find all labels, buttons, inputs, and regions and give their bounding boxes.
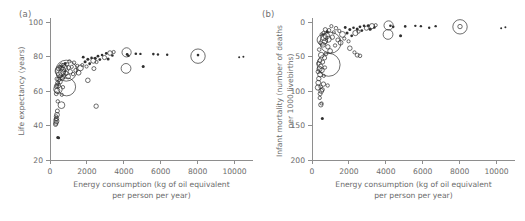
data-point-bubble bbox=[458, 24, 462, 28]
data-point-dot bbox=[197, 54, 200, 57]
data-point-bubble bbox=[92, 67, 96, 71]
data-point-dot bbox=[242, 56, 244, 58]
y-tick-label: 0 bbox=[300, 18, 305, 27]
data-point-bubble bbox=[353, 51, 356, 54]
data-point-bubble bbox=[453, 20, 467, 34]
data-point-dot bbox=[399, 34, 402, 37]
panel-a: (a) 204060801000200040006000800010000Ene… bbox=[0, 0, 262, 221]
panel-b: (b) 0501001502000200040006000800010000En… bbox=[262, 0, 524, 221]
data-point-dot bbox=[373, 26, 376, 29]
data-point-bubble bbox=[85, 65, 88, 68]
x-tick-label: 2000 bbox=[339, 167, 358, 176]
data-point-bubble bbox=[336, 38, 340, 42]
data-points bbox=[54, 48, 245, 140]
data-point-dot bbox=[348, 28, 351, 31]
data-point-dot bbox=[359, 25, 362, 28]
data-point-dot bbox=[504, 26, 506, 28]
data-point-bubble bbox=[384, 21, 393, 30]
data-point-dot bbox=[157, 53, 159, 55]
y-tick-label: 200 bbox=[291, 156, 306, 165]
data-point-dot bbox=[420, 25, 422, 27]
x-axis-title-line2: per person per year) bbox=[374, 191, 452, 200]
data-point-bubble bbox=[322, 56, 326, 60]
x-tick-label: 4000 bbox=[376, 167, 395, 176]
data-point-dot bbox=[166, 54, 168, 56]
data-point-dot bbox=[344, 26, 347, 29]
y-tick-label: 60 bbox=[33, 87, 43, 96]
y-tick-label: 100 bbox=[29, 18, 44, 27]
data-point-bubble bbox=[318, 52, 324, 58]
data-point-dot bbox=[90, 57, 93, 60]
data-point-bubble bbox=[317, 53, 340, 76]
data-point-dot bbox=[321, 117, 324, 120]
data-point-dot bbox=[152, 53, 155, 56]
y-tick-label: 50 bbox=[295, 52, 305, 61]
data-point-dot bbox=[404, 25, 407, 28]
data-points bbox=[315, 20, 506, 120]
y-tick-label: 20 bbox=[33, 156, 43, 165]
data-point-dot bbox=[500, 27, 502, 29]
figure-container: (a) 204060801000200040006000800010000Ene… bbox=[0, 0, 525, 221]
data-point-bubble bbox=[348, 46, 353, 51]
x-tick-label: 6000 bbox=[151, 167, 170, 176]
panel-b-plot: 0501001502000200040006000800010000Energy… bbox=[262, 0, 524, 221]
x-tick-label: 0 bbox=[48, 167, 53, 176]
x-axis-title-line1: Energy consumption (kg of oil equivalent bbox=[73, 180, 229, 189]
x-tick-label: 10000 bbox=[222, 167, 246, 176]
x-tick-label: 8000 bbox=[188, 167, 207, 176]
data-point-dot bbox=[428, 27, 430, 29]
data-point-dot bbox=[82, 56, 85, 59]
data-point-bubble bbox=[102, 55, 106, 59]
x-tick-label: 8000 bbox=[450, 167, 469, 176]
data-point-dot bbox=[414, 25, 416, 27]
x-tick-label: 6000 bbox=[413, 167, 432, 176]
x-tick-label: 0 bbox=[310, 167, 315, 176]
data-point-dot bbox=[352, 26, 355, 29]
data-point-bubble bbox=[333, 44, 336, 47]
data-point-dot bbox=[88, 62, 91, 65]
data-point-dot bbox=[363, 25, 366, 28]
data-point-bubble bbox=[347, 40, 350, 43]
data-point-dot bbox=[97, 55, 100, 58]
data-point-bubble bbox=[78, 65, 84, 71]
data-point-bubble bbox=[326, 45, 330, 49]
data-point-bubble bbox=[330, 25, 333, 28]
data-point-bubble bbox=[86, 78, 91, 83]
x-axis-title-line1: Energy consumption (kg of oil equivalent bbox=[335, 180, 491, 189]
x-axis-title-line2: per person per year) bbox=[112, 191, 190, 200]
data-point-bubble bbox=[121, 64, 131, 74]
data-point-dot bbox=[139, 53, 141, 55]
data-point-bubble bbox=[68, 69, 72, 73]
data-point-dot bbox=[101, 54, 104, 57]
data-point-dot bbox=[346, 32, 349, 35]
data-point-dot bbox=[127, 55, 130, 58]
data-point-dot bbox=[360, 29, 363, 32]
data-point-bubble bbox=[318, 92, 322, 96]
y-axis-title-line2: per 1000 livebirths) bbox=[286, 54, 295, 129]
x-tick-label: 10000 bbox=[484, 167, 508, 176]
data-point-dot bbox=[389, 24, 392, 27]
data-point-bubble bbox=[56, 100, 59, 103]
y-axis-title-line1: Infant mortality (number of deaths bbox=[275, 25, 284, 157]
data-point-dot bbox=[238, 56, 240, 58]
data-point-bubble bbox=[323, 28, 327, 32]
data-point-bubble bbox=[383, 30, 393, 40]
data-point-dot bbox=[135, 52, 138, 55]
data-point-dot bbox=[57, 137, 60, 140]
data-point-dot bbox=[105, 52, 108, 55]
data-point-bubble bbox=[323, 66, 326, 69]
data-point-dot bbox=[142, 65, 145, 68]
x-tick-label: 4000 bbox=[114, 167, 133, 176]
data-point-dot bbox=[350, 34, 353, 37]
data-point-dot bbox=[434, 25, 436, 27]
data-point-bubble bbox=[338, 29, 341, 32]
data-point-dot bbox=[111, 54, 114, 57]
data-point-bubble bbox=[334, 26, 338, 30]
data-point-bubble bbox=[74, 68, 78, 72]
x-tick-label: 2000 bbox=[77, 167, 96, 176]
y-tick-label: 40 bbox=[33, 121, 43, 130]
data-point-dot bbox=[86, 58, 89, 61]
y-axis-title-line1: Life expectancy (years) bbox=[17, 46, 26, 135]
data-point-dot bbox=[392, 26, 395, 29]
panel-a-plot: 204060801000200040006000800010000Energy … bbox=[0, 0, 262, 221]
